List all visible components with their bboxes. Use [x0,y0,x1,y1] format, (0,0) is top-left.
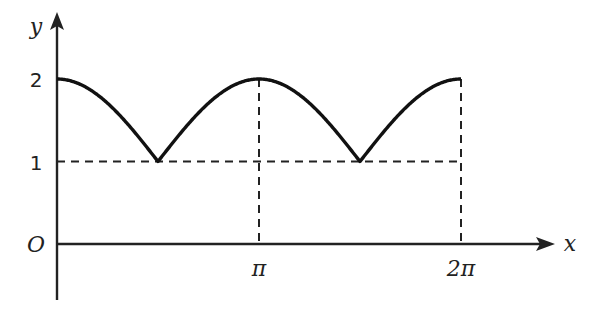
x-axis-label: x [564,231,577,256]
x-tick-label-1: π [251,256,267,281]
dashed-guides [57,79,461,244]
axis-labels: 12π2πOxy [27,14,577,281]
origin-label: O [27,232,45,257]
y-tick-label-1: 1 [30,151,43,175]
chart-canvas: 12π2πOxy [0,0,590,312]
axes [50,12,555,300]
y-tick-label-2: 2 [30,68,43,92]
x-tick-label-2: 2π [446,256,476,281]
y-axis-label: y [29,14,43,39]
